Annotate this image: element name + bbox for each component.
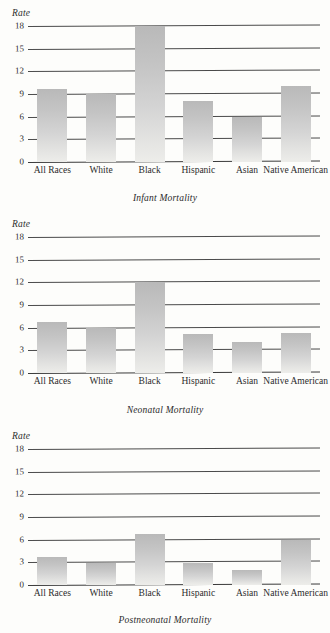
bar-white [86, 94, 116, 162]
x-axis-labels: All RacesWhiteBlackHispanicAsianNative A… [28, 588, 320, 618]
y-tick-label-9: 9 [19, 90, 24, 99]
x-axis-labels: All RacesWhiteBlackHispanicAsianNative A… [28, 165, 320, 195]
bar-native-american [281, 540, 311, 585]
x-tick-label-native-american: Native American [259, 588, 330, 600]
y-axis-title: Rate [12, 8, 30, 18]
y-tick-label-6: 6 [19, 535, 24, 544]
x-axis-labels: All RacesWhiteBlackHispanicAsianNative A… [28, 376, 320, 406]
bar-series [28, 449, 320, 585]
bar-series [28, 237, 320, 373]
chart-title: Infant Mortality [0, 193, 330, 203]
bar-asian [232, 117, 262, 162]
y-axis-title: Rate [12, 431, 30, 441]
chart-block-1: Rate0369121518All RacesWhiteBlackHispani… [0, 211, 330, 423]
y-tick-label-18: 18 [15, 233, 24, 242]
bar-black [135, 534, 165, 585]
chart-title: Neonatal Mortality [0, 405, 330, 415]
y-tick-label-12: 12 [15, 490, 24, 499]
bar-series [28, 26, 320, 162]
bar-hispanic [183, 563, 213, 585]
bar-all-races [37, 89, 67, 162]
y-tick-label-3: 3 [19, 135, 24, 144]
bar-hispanic [183, 334, 213, 373]
bar-native-american [281, 86, 311, 162]
y-tick-label-6: 6 [19, 323, 24, 332]
y-tick-label-18: 18 [15, 445, 24, 454]
bar-hispanic [183, 101, 213, 162]
bar-all-races [37, 557, 67, 585]
bar-all-races [37, 322, 67, 373]
plot-area: 0369121518 [28, 449, 320, 585]
y-tick-label-15: 15 [15, 44, 24, 53]
y-tick-label-18: 18 [15, 22, 24, 31]
y-tick-label-9: 9 [19, 301, 24, 310]
bar-asian [232, 342, 262, 373]
y-tick-label-12: 12 [15, 67, 24, 76]
y-tick-label-15: 15 [15, 467, 24, 476]
y-tick-label-3: 3 [19, 346, 24, 355]
y-tick-label-15: 15 [15, 255, 24, 264]
y-axis-title: Rate [12, 219, 30, 229]
bar-black [135, 26, 165, 162]
y-tick-label-6: 6 [19, 112, 24, 121]
bar-black [135, 282, 165, 373]
x-tick-label-native-american: Native American [259, 376, 330, 388]
y-tick-label-9: 9 [19, 513, 24, 522]
bar-native-american [281, 333, 311, 373]
plot-area: 0369121518 [28, 26, 320, 162]
plot-area: 0369121518 [28, 237, 320, 373]
figure-page: Rate0369121518All RacesWhiteBlackHispani… [0, 0, 330, 633]
chart-block-0: Rate0369121518All RacesWhiteBlackHispani… [0, 0, 330, 211]
chart-block-2: Rate0369121518All RacesWhiteBlackHispani… [0, 423, 330, 633]
bar-white [86, 328, 116, 373]
y-tick-label-3: 3 [19, 558, 24, 567]
y-tick-label-12: 12 [15, 278, 24, 287]
x-tick-label-native-american: Native American [259, 165, 330, 177]
bar-white [86, 563, 116, 585]
bar-asian [232, 570, 262, 585]
chart-title: Postneonatal Mortality [0, 615, 330, 625]
